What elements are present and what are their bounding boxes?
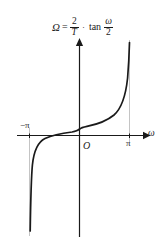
xtick-label-neg-pi: −π [20, 121, 30, 130]
equation-arg-numerator-omega: ω [103, 17, 114, 27]
equation-denominator-T: T [70, 27, 79, 38]
equation-arg-denominator-2: 2 [104, 27, 113, 38]
xtick-label-pi: π [126, 139, 131, 148]
equation-fraction-omega-over-two: ω 2 [103, 17, 114, 37]
equation-tan-function: tan [88, 22, 101, 32]
x-axis-label-omega: ω [148, 129, 155, 139]
equation-numerator-2: 2 [70, 17, 79, 27]
origin-label: O [83, 141, 90, 151]
equation-label: Ω = 2 T · tan ω 2 [52, 17, 114, 37]
equation-fraction-two-over-t: 2 T [70, 17, 79, 37]
equation-omega-capital: Ω [52, 22, 60, 33]
equation-equals: = [62, 22, 68, 32]
equation-multiplication-dot: · [81, 23, 86, 32]
